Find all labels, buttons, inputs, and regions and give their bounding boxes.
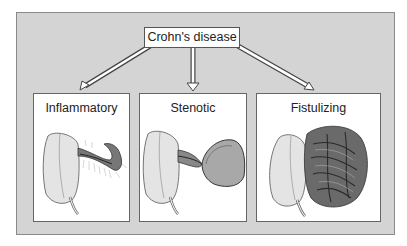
root-node-crohns-disease: Crohn's disease xyxy=(144,27,240,48)
inflamed-bowel-icon xyxy=(34,94,131,223)
root-label: Crohn's disease xyxy=(147,30,236,44)
stenotic-bowel-icon xyxy=(140,94,248,223)
panel-fistulizing: Fistulizing xyxy=(256,93,381,222)
fistulizing-bowel-icon xyxy=(257,94,382,223)
panel-inflammatory: Inflammatory xyxy=(33,93,130,222)
panel-stenotic: Stenotic xyxy=(139,93,247,222)
